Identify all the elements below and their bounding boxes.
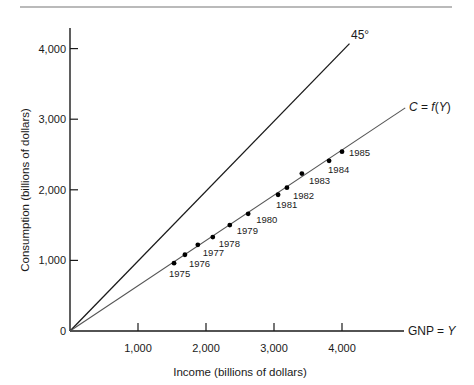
data-point-label-1980: 1980 bbox=[256, 214, 277, 225]
consumption-function-label: C = f(Y) bbox=[409, 100, 451, 114]
y-tick-label: 3,000 bbox=[38, 113, 66, 125]
x-axis-title: Income (billions of dollars) bbox=[173, 366, 307, 378]
x-tick-label: 2,000 bbox=[192, 342, 220, 354]
data-point-1975 bbox=[172, 261, 177, 266]
y-tick-label: 2,000 bbox=[38, 184, 66, 196]
y-tick-label: 0 bbox=[60, 325, 66, 337]
data-point-label-1975: 1975 bbox=[169, 268, 190, 279]
data-point-1977 bbox=[195, 242, 200, 247]
data-point-label-1983: 1983 bbox=[309, 175, 330, 186]
y-axis-ticks: 01,0002,0003,0004,000 bbox=[38, 43, 78, 337]
line-45-label: 45° bbox=[351, 28, 369, 42]
x-tick-label: 3,000 bbox=[260, 342, 288, 354]
equals-sign: = bbox=[418, 100, 432, 114]
consumption-function-line bbox=[70, 108, 405, 331]
data-point-1976 bbox=[183, 252, 188, 257]
y-tick-label: 1,000 bbox=[38, 254, 66, 266]
data-point-label-1976: 1976 bbox=[189, 258, 210, 269]
data-point-1982 bbox=[285, 185, 290, 190]
gnp-y-symbol: Y bbox=[447, 324, 456, 338]
data-point-label-1984: 1984 bbox=[328, 164, 349, 175]
y-tick-label: 4,000 bbox=[38, 43, 66, 55]
x-axis-ticks: 1,0002,0003,0004,000 bbox=[124, 323, 356, 354]
consumption-chart: 01,0002,0003,0004,000 1,0002,0003,0004,0… bbox=[0, 0, 474, 385]
data-point-1984 bbox=[327, 158, 332, 163]
x-tick-label: 4,000 bbox=[328, 342, 356, 354]
axes bbox=[70, 28, 404, 331]
data-point-1985 bbox=[340, 149, 345, 154]
data-point-label-1985: 1985 bbox=[349, 147, 370, 158]
x-tick-label: 1,000 bbox=[124, 342, 152, 354]
data-point-label-1982: 1982 bbox=[293, 190, 314, 201]
line-45-degree bbox=[70, 44, 349, 331]
data-point-1978 bbox=[210, 235, 215, 240]
data-point-label-1979: 1979 bbox=[237, 225, 258, 236]
data-points: 1975197619771978197919801981198219831984… bbox=[169, 147, 370, 280]
y-axis-title: Consumption (billions of dollars) bbox=[19, 108, 31, 272]
data-point-1980 bbox=[246, 211, 251, 216]
data-point-1981 bbox=[276, 192, 281, 197]
data-point-1979 bbox=[227, 223, 232, 228]
data-point-label-1978: 1978 bbox=[219, 238, 240, 249]
gnp-text: GNP = bbox=[408, 324, 447, 338]
gnp-axis-label: GNP = Y bbox=[408, 324, 456, 338]
data-point-1983 bbox=[299, 171, 304, 176]
plot-lines bbox=[70, 44, 405, 331]
paren-close: ) bbox=[447, 100, 451, 114]
c-symbol: C bbox=[409, 100, 418, 114]
